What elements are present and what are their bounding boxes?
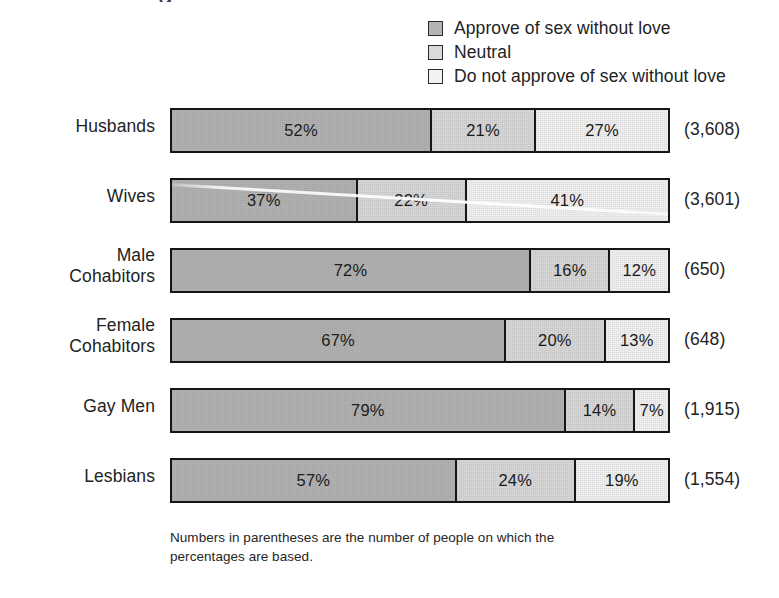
bar-segment[interactable]: 52% [172, 110, 430, 151]
category-label-line: Female [0, 315, 155, 336]
bar-segment[interactable]: 14% [564, 390, 633, 431]
chart-row: MaleCohabitors72%16%12%(650) [0, 236, 779, 306]
chart-legend: Approve of sex without loveNeutralDo not… [428, 16, 768, 88]
chart-row: FemaleCohabitors67%20%13%(648) [0, 306, 779, 376]
category-label-line: Male [0, 245, 155, 266]
category-label: Gay Men [0, 396, 155, 417]
bar-segment-value: 7% [640, 401, 664, 420]
legend-item-label: Approve of sex without love [454, 18, 671, 39]
chart-row: Lesbians57%24%19%(1,554) [0, 446, 779, 516]
bar-segment[interactable]: 22% [356, 180, 465, 221]
clipped-title-glyph: g [158, 0, 198, 2]
bar-segment-value: 24% [498, 471, 532, 490]
stacked-bar: 79%14%7% [170, 388, 670, 433]
category-label-line: Wives [0, 186, 155, 207]
bar-segment-value: 72% [334, 261, 368, 280]
sample-size-label: (3,601) [684, 189, 740, 210]
sample-size-label: (3,608) [684, 119, 740, 140]
bar-segment[interactable]: 24% [455, 460, 574, 501]
stacked-bar: 67%20%13% [170, 318, 670, 363]
legend-swatch-neutral [428, 45, 443, 60]
category-label-line: Husbands [0, 116, 155, 137]
stacked-bar: 57%24%19% [170, 458, 670, 503]
bar-segment[interactable]: 21% [430, 110, 534, 151]
stacked-bar: 72%16%12% [170, 248, 670, 293]
bar-segment[interactable]: 67% [172, 320, 504, 361]
legend-item[interactable]: Approve of sex without love [428, 16, 768, 40]
clipped-title-artifact: g [158, 0, 198, 2]
bar-segment[interactable]: 16% [529, 250, 608, 291]
bar-segment-value: 67% [321, 331, 355, 350]
bar-segment-value: 20% [538, 331, 572, 350]
bar-segment-value: 27% [585, 121, 619, 140]
bar-segment-value: 16% [553, 261, 587, 280]
category-label: Lesbians [0, 466, 155, 487]
sample-size-label: (1,915) [684, 399, 740, 420]
bar-segment[interactable]: 7% [633, 390, 668, 431]
legend-item[interactable]: Do not approve of sex without love [428, 64, 768, 88]
bar-segment[interactable]: 79% [172, 390, 564, 431]
legend-item-label: Neutral [454, 42, 511, 63]
legend-item-label: Do not approve of sex without love [454, 66, 726, 87]
bar-segment[interactable]: 19% [574, 460, 668, 501]
bar-segment[interactable]: 57% [172, 460, 455, 501]
legend-swatch-disapprove [428, 69, 443, 84]
category-label: Husbands [0, 116, 155, 137]
bar-segment-value: 57% [297, 471, 331, 490]
bar-segment[interactable]: 13% [604, 320, 668, 361]
bar-segment-value: 41% [550, 191, 584, 210]
sample-size-label: (650) [684, 259, 725, 280]
chart-footnote: Numbers in parentheses are the number of… [170, 528, 620, 566]
bar-segment[interactable]: 37% [172, 180, 356, 221]
stacked-bar: 52%21%27% [170, 108, 670, 153]
chart-row: Husbands52%21%27%(3,608) [0, 96, 779, 166]
chart-row: Wives37%22%41%(3,601) [0, 166, 779, 236]
bar-segment[interactable]: 12% [608, 250, 668, 291]
bar-segment[interactable]: 20% [504, 320, 603, 361]
bar-segment-value: 12% [622, 261, 656, 280]
bar-segment-value: 79% [351, 401, 385, 420]
sample-size-label: (648) [684, 329, 725, 350]
sample-size-label: (1,554) [684, 469, 740, 490]
bar-segment-value: 21% [466, 121, 500, 140]
bar-segment[interactable]: 41% [465, 180, 668, 221]
bar-segment-value: 22% [394, 191, 428, 210]
bar-segment-value: 19% [605, 471, 639, 490]
category-label-line: Lesbians [0, 466, 155, 487]
category-label-line: Gay Men [0, 396, 155, 417]
stacked-bar: 37%22%41% [170, 178, 670, 223]
bar-segment-value: 52% [284, 121, 318, 140]
bar-segment[interactable]: 72% [172, 250, 529, 291]
legend-item[interactable]: Neutral [428, 40, 768, 64]
category-label: Wives [0, 186, 155, 207]
bar-segment[interactable]: 27% [534, 110, 668, 151]
bar-segment-value: 37% [247, 191, 281, 210]
legend-swatch-approve [428, 21, 443, 36]
category-label-line: Cohabitors [0, 336, 155, 357]
category-label: FemaleCohabitors [0, 315, 155, 357]
stacked-bar-chart: Husbands52%21%27%(3,608)Wives37%22%41%(3… [0, 96, 779, 516]
bar-segment-value: 13% [620, 331, 654, 350]
category-label: MaleCohabitors [0, 245, 155, 287]
bar-segment-value: 14% [583, 401, 617, 420]
chart-row: Gay Men79%14%7%(1,915) [0, 376, 779, 446]
category-label-line: Cohabitors [0, 266, 155, 287]
